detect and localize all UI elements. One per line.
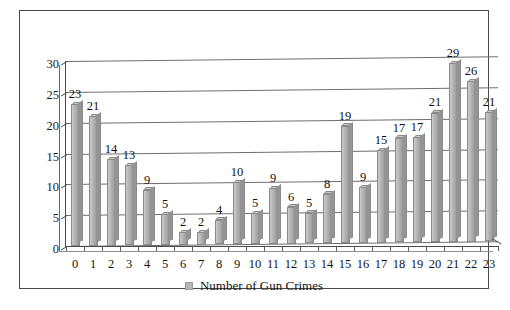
- data-label-20: 21: [425, 96, 446, 109]
- y-tick-label-0: 0: [53, 243, 59, 256]
- bar-8: [215, 220, 224, 245]
- bar-side-face: [258, 210, 263, 241]
- data-label-19: 17: [407, 121, 428, 134]
- x-tick-4: [138, 246, 139, 251]
- data-label-7: 2: [191, 216, 212, 229]
- x-tick-label-17: 17: [371, 258, 391, 271]
- x-tick-6: [174, 246, 175, 251]
- x-tick-end: [498, 246, 499, 251]
- bar-side-face: [492, 108, 497, 238]
- bar-side-face: [168, 211, 173, 242]
- bar-16: [359, 187, 368, 243]
- bar-22: [467, 81, 476, 241]
- x-tick-label-8: 8: [209, 258, 229, 271]
- data-label-13: 5: [299, 197, 320, 210]
- x-tick-23: [480, 246, 481, 251]
- y-tick-label-30: 30: [47, 58, 60, 71]
- data-label-5: 5: [155, 198, 176, 211]
- bar-15: [341, 126, 350, 243]
- bar-0: [71, 104, 80, 246]
- y-tick-label-25: 25: [47, 89, 60, 102]
- x-tick-19: [408, 246, 409, 251]
- x-tick-16: [354, 246, 355, 251]
- data-label-0: 23: [65, 88, 86, 101]
- data-label-9: 10: [227, 166, 248, 179]
- bar-21: [449, 63, 458, 242]
- bar-side-face: [240, 179, 245, 241]
- bar-11: [269, 188, 278, 244]
- bar-2: [107, 159, 116, 245]
- x-tick-3: [120, 246, 121, 251]
- x-tick-label-3: 3: [119, 258, 139, 271]
- x-tick-17: [372, 246, 373, 251]
- x-tick-label-11: 11: [263, 258, 283, 271]
- x-axis-depth-line: [59, 251, 493, 252]
- bar-side-face: [132, 162, 137, 243]
- data-label-23: 21: [479, 96, 500, 109]
- x-tick-9: [228, 246, 229, 251]
- data-label-17: 15: [371, 134, 392, 147]
- data-label-1: 21: [83, 100, 104, 113]
- bar-6: [179, 232, 188, 244]
- bar-side-face: [384, 147, 389, 240]
- x-tick-label-0: 0: [65, 258, 85, 271]
- bar-10: [251, 213, 260, 244]
- x-tick-8: [210, 246, 211, 251]
- data-label-3: 13: [119, 149, 140, 162]
- x-tick-label-10: 10: [245, 258, 265, 271]
- bar-17: [377, 150, 386, 243]
- bar-20: [431, 113, 440, 243]
- bar-14: [323, 194, 332, 243]
- bar-side-face: [330, 190, 335, 240]
- data-label-22: 26: [461, 65, 482, 78]
- bar-side-face: [312, 209, 317, 240]
- x-tick-label-13: 13: [299, 258, 319, 271]
- gridline-25: [66, 87, 498, 93]
- plot-area: 2321141395224105965819915171721292621: [66, 61, 498, 246]
- x-tick-21: [444, 246, 445, 251]
- data-label-10: 5: [245, 197, 266, 210]
- x-tick-label-7: 7: [191, 258, 211, 271]
- x-tick-label-19: 19: [407, 258, 427, 271]
- x-tick-label-12: 12: [281, 258, 301, 271]
- x-tick-0: [66, 246, 67, 251]
- x-tick-1: [84, 246, 85, 251]
- x-tick-label-23: 23: [479, 258, 499, 271]
- bar-side-face: [222, 216, 227, 241]
- y-axis-line: 051015202530: [65, 61, 66, 247]
- bar-side-face: [402, 134, 407, 239]
- x-tick-label-21: 21: [443, 258, 463, 271]
- x-tick-label-15: 15: [335, 258, 355, 271]
- bar-13: [305, 213, 314, 244]
- x-tick-label-22: 22: [461, 258, 481, 271]
- bar-side-face: [474, 78, 479, 239]
- x-tick-20: [426, 246, 427, 251]
- chart-frame: 2321141395224105965819915171721292621 05…: [19, 10, 489, 289]
- bar-side-face: [294, 203, 299, 241]
- x-tick-7: [192, 246, 193, 251]
- bar-1: [89, 116, 98, 246]
- bar-4: [143, 190, 152, 246]
- x-tick-label-16: 16: [353, 258, 373, 271]
- y-tick-label-10: 10: [47, 181, 60, 194]
- bar-side-face: [438, 109, 443, 239]
- y-axis-depth-line: [59, 65, 60, 251]
- bar-23: [485, 112, 494, 242]
- y-tick-label-20: 20: [47, 119, 60, 132]
- bar-side-face: [150, 186, 155, 242]
- bar-side-face: [276, 185, 281, 241]
- data-label-14: 8: [317, 178, 338, 191]
- bar-side-face: [348, 122, 353, 240]
- bar-3: [125, 165, 134, 245]
- x-tick-11: [264, 246, 265, 251]
- bar-side-face: [420, 134, 425, 239]
- bar-side-face: [456, 60, 461, 239]
- data-label-21: 29: [443, 47, 464, 60]
- y-tick-label-15: 15: [47, 150, 60, 163]
- x-tick-18: [390, 246, 391, 251]
- x-tick-14: [318, 246, 319, 251]
- bar-9: [233, 182, 242, 244]
- x-tick-label-4: 4: [137, 258, 157, 271]
- bar-12: [287, 207, 296, 244]
- x-tick-label-18: 18: [389, 258, 409, 271]
